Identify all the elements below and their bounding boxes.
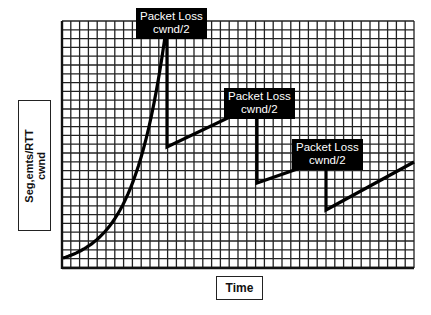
y-axis-label-box: Seg,emts/RTT cwnd [18, 100, 51, 231]
callout-subtitle: cwnd/2 [228, 103, 291, 116]
x-axis-label: Time [216, 276, 263, 300]
packet-loss-callout-3: Packet Loss cwnd/2 [292, 139, 363, 170]
y-axis-label-line2: cwnd [35, 129, 47, 202]
callout-subtitle: cwnd/2 [296, 154, 359, 167]
tcp-cwnd-diagram [0, 0, 431, 315]
packet-loss-callout-2: Packet Loss cwnd/2 [224, 88, 295, 119]
packet-loss-callout-1: Packet Loss cwnd/2 [136, 8, 207, 39]
callout-title: Packet Loss [228, 90, 291, 103]
y-axis-label: Seg,emts/RTT cwnd [23, 129, 47, 202]
callout-title: Packet Loss [296, 141, 359, 154]
callout-title: Packet Loss [140, 10, 203, 23]
callout-subtitle: cwnd/2 [140, 23, 203, 36]
y-axis-label-line1: Seg,emts/RTT [23, 129, 35, 202]
